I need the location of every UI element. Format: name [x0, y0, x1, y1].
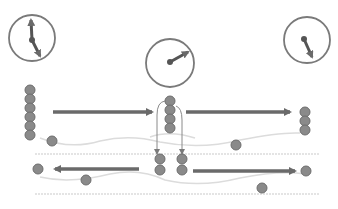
- ball-stack-lower-a: [155, 154, 165, 175]
- ball-stack-left: [25, 85, 35, 140]
- ball-stack-right: [300, 107, 310, 135]
- diagram-canvas: [0, 0, 338, 209]
- clock-right-icon: [284, 17, 330, 63]
- ball-stack-lower-b: [177, 154, 187, 175]
- clock-left-icon: [9, 15, 55, 61]
- ball-stack-center: [165, 96, 175, 133]
- guide-lines: [35, 133, 320, 194]
- clock-center-icon: [146, 39, 194, 87]
